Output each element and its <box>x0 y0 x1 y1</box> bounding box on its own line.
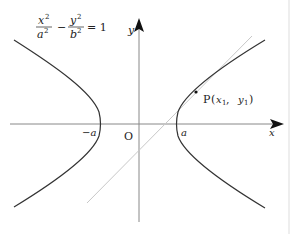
right-vertex-label: a <box>181 127 187 138</box>
eq-minus: − <box>57 21 66 34</box>
eq-term2-den-exp: 2 <box>77 27 81 35</box>
point-comma: , <box>226 93 230 106</box>
hyperbola-diagram: x 2 a 2 − y 2 b 2 = 1 y x O −a a P ( x 1… <box>0 0 294 234</box>
eq-term1-num-exp: 2 <box>45 13 49 21</box>
point-name: P <box>203 93 211 106</box>
eq-term1-numerator: x <box>38 14 45 27</box>
y-axis-label: y <box>127 24 135 37</box>
equation: x 2 a 2 − y 2 b 2 = 1 <box>36 13 107 41</box>
origin-label: O <box>124 130 133 143</box>
eq-term2-num-exp: 2 <box>77 13 81 21</box>
point-close-paren: ) <box>249 93 253 106</box>
eq-term2-denominator: b <box>70 28 77 41</box>
x-axis-label: x <box>269 127 275 138</box>
eq-term1-denominator: a <box>37 28 44 41</box>
point-p-label: P ( x 1 , y 1 ) <box>203 93 253 107</box>
point-y-subscript: 1 <box>244 99 248 107</box>
eq-term2-numerator: y <box>69 14 77 27</box>
eq-term1-den-exp: 2 <box>44 27 48 35</box>
left-vertex-label: −a <box>82 127 96 138</box>
eq-equals-one: = 1 <box>87 21 107 34</box>
tangent-line <box>87 36 252 203</box>
point-p-marker <box>194 90 197 93</box>
point-y: y <box>237 94 244 105</box>
point-open-paren: ( <box>211 93 215 106</box>
